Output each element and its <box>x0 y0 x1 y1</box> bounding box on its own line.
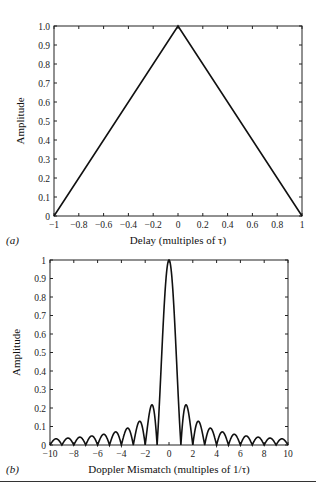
panel-label: (a) <box>6 234 19 247</box>
data-line <box>50 260 288 445</box>
y-tick-label: 0.4 <box>38 136 50 146</box>
figure: −1−0.8−0.6−0.4−0.200.20.40.60.8100.10.20… <box>0 0 316 490</box>
x-tick-label: −2 <box>140 449 150 459</box>
y-tick-label: 0.1 <box>38 193 50 203</box>
y-tick-label: 0.2 <box>38 174 50 184</box>
y-tick-label: 0.9 <box>34 274 46 284</box>
panel-label: (b) <box>6 463 19 476</box>
x-tick-label: −0.2 <box>145 220 162 230</box>
y-axis-label: Amplitude <box>14 97 26 144</box>
x-axis-label: Doppler Mismatch (multiples of 1/τ) <box>88 463 250 476</box>
x-tick-label: 4 <box>214 449 219 459</box>
y-tick-label: 0.8 <box>34 293 46 303</box>
x-tick-label: 0.6 <box>246 220 258 230</box>
y-tick-label: 0.5 <box>38 117 50 127</box>
x-tick-label: 0 <box>176 220 181 230</box>
y-tick-label: 1 <box>41 256 46 266</box>
y-tick-label: 0.8 <box>38 60 50 70</box>
y-tick-label: 0.7 <box>38 79 50 89</box>
x-tick-label: 8 <box>262 449 267 459</box>
y-tick-label: 0 <box>41 441 46 451</box>
y-tick-label: 0.6 <box>34 330 46 340</box>
y-tick-label: 0.2 <box>34 404 46 414</box>
y-tick-label: 0.3 <box>38 155 50 165</box>
x-tick-label: 2 <box>190 449 195 459</box>
y-tick-label: 0 <box>45 212 50 222</box>
y-tick-label: 1.0 <box>38 22 50 32</box>
x-tick-label: −4 <box>116 449 126 459</box>
y-tick-label: 0.9 <box>38 41 50 51</box>
x-tick-label: 0 <box>167 449 172 459</box>
x-tick-label: −0.8 <box>70 220 87 230</box>
x-tick-label: 6 <box>238 449 243 459</box>
x-tick-label: 1 <box>300 220 305 230</box>
y-axis-label: Amplitude <box>10 329 22 376</box>
x-tick-label: 10 <box>283 449 293 459</box>
y-tick-label: 0.4 <box>34 367 46 377</box>
figure-caption-cut <box>0 481 316 490</box>
y-tick-label: 0.6 <box>38 98 50 108</box>
y-tick-label: 0.3 <box>34 385 46 395</box>
data-line <box>54 26 302 216</box>
x-tick-label: −1 <box>49 220 59 230</box>
x-tick-label: −10 <box>43 449 58 459</box>
plot-frame <box>50 260 288 445</box>
plot-b: −10−8−6−4−2024681000.10.20.30.40.50.60.7… <box>6 256 293 477</box>
x-tick-label: −8 <box>69 449 79 459</box>
y-tick-label: 0.5 <box>34 348 46 358</box>
x-tick-label: 0.8 <box>271 220 283 230</box>
y-tick-label: 0.1 <box>34 422 46 432</box>
plot-frame <box>54 26 302 216</box>
y-tick-label: 0.7 <box>34 311 46 321</box>
x-tick-label: −6 <box>93 449 103 459</box>
x-axis-label: Delay (multiples of τ) <box>130 234 227 247</box>
x-tick-label: −0.6 <box>95 220 112 230</box>
plot-a: −1−0.8−0.6−0.4−0.200.20.40.60.8100.10.20… <box>6 22 305 248</box>
x-tick-label: 0.4 <box>222 220 234 230</box>
x-tick-label: 0.2 <box>197 220 209 230</box>
x-tick-label: −0.4 <box>120 220 137 230</box>
